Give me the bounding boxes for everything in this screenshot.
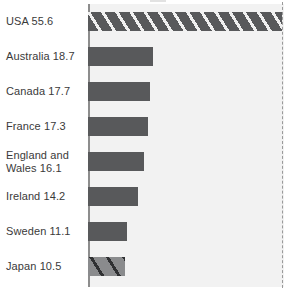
bar-label: Australia 18.7 <box>6 39 84 74</box>
bar-canada <box>88 82 150 101</box>
bar-row: Sweden 11.1 <box>0 214 294 249</box>
bar-row: Canada 17.7 <box>0 74 294 109</box>
bar-australia <box>88 47 153 66</box>
bar-row: USA 55.6 <box>0 4 294 39</box>
bar-row: England and Wales 16.1 <box>0 144 294 179</box>
bar-sweden <box>88 222 127 241</box>
bar-label: Canada 17.7 <box>6 74 84 109</box>
bar-row: France 17.3 <box>0 109 294 144</box>
cropped-title-remnant <box>150 0 166 2</box>
bar-row: Japan 10.5 <box>0 249 294 284</box>
bar-row: Australia 18.7 <box>0 39 294 74</box>
bar-label: England and Wales 16.1 <box>6 144 84 179</box>
bar-chart: USA 55.6 Australia 18.7 Canada 17.7 Fran… <box>0 0 294 289</box>
bar-usa <box>88 12 282 31</box>
bar-label: Sweden 11.1 <box>6 214 84 249</box>
bar-row: Ireland 14.2 <box>0 179 294 214</box>
bar-label: USA 55.6 <box>6 4 84 39</box>
bar-label: Japan 10.5 <box>6 249 84 284</box>
bar-england-and-wales <box>88 152 144 171</box>
bar-france <box>88 117 148 136</box>
bar-label: Ireland 14.2 <box>6 179 84 214</box>
bar-label: France 17.3 <box>6 109 84 144</box>
bar-ireland <box>88 187 138 206</box>
bar-japan <box>88 257 125 276</box>
